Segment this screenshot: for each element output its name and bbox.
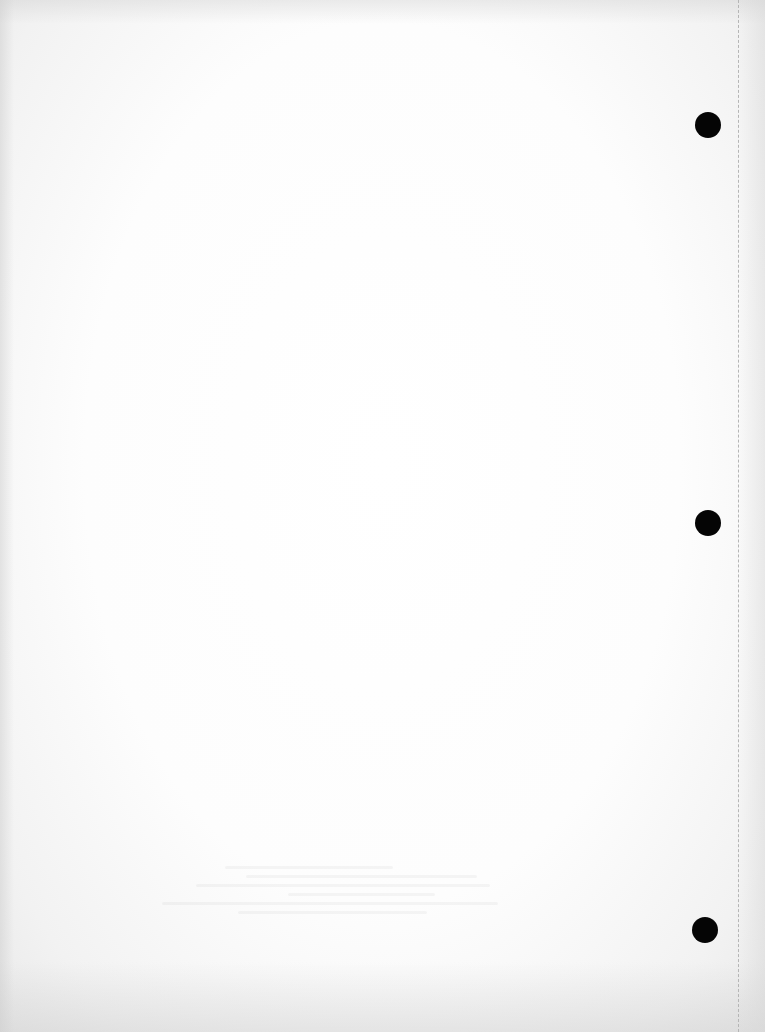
punch-hole-middle <box>695 510 721 536</box>
punch-hole-bottom <box>692 917 718 943</box>
punch-hole-top <box>695 112 721 138</box>
scan-edge-left <box>0 0 14 1032</box>
perforation-line <box>738 0 739 1032</box>
blank-page <box>0 0 765 1032</box>
scan-edge-bottom <box>0 962 765 1032</box>
faint-show-through-text <box>120 860 540 960</box>
scan-edge-right <box>739 0 765 1032</box>
scan-edge-top <box>0 0 765 24</box>
